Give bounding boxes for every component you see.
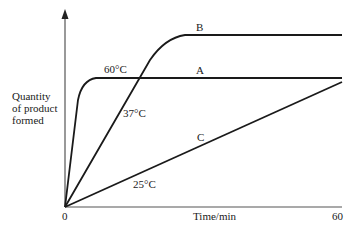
curve-label-b: B bbox=[196, 21, 203, 33]
y-axis-label-line-2: of product bbox=[12, 102, 68, 114]
temp-label-37c: 37°C bbox=[123, 107, 146, 119]
y-axis-label: Quantity of product formed bbox=[12, 90, 68, 126]
x-tick-60: 60 bbox=[332, 210, 344, 222]
y-axis-arrow-icon bbox=[62, 9, 69, 19]
curve-c-25c bbox=[65, 82, 342, 207]
x-axis-label: Time/min bbox=[193, 210, 236, 222]
curve-label-c: C bbox=[197, 131, 204, 143]
temp-label-25c: 25°C bbox=[133, 178, 156, 190]
temp-label-60c: 60°C bbox=[104, 63, 127, 75]
x-tick-0: 0 bbox=[62, 210, 68, 222]
y-axis-label-line-1: Quantity bbox=[12, 90, 68, 102]
curve-b-37c bbox=[65, 35, 342, 207]
curve-label-a: A bbox=[196, 64, 204, 76]
y-axis-label-line-3: formed bbox=[12, 114, 68, 126]
